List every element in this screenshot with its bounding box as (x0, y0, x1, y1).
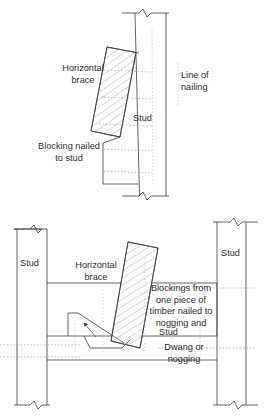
brace-stud-contact-top (136, 53, 139, 54)
label-stud-right: Stud (221, 248, 240, 258)
label-line: Horizontal (63, 259, 129, 271)
stud-outline-top (135, 13, 166, 196)
label-line: Blockings from (142, 283, 220, 295)
label-blockings-from-one-piece: Blockings from one piece of timber naile… (142, 283, 220, 329)
leader-arrow-icon (84, 323, 96, 337)
label-line: brace (63, 271, 129, 283)
technical-drawing-figure: Horizontal brace Blocking nailed to stud… (0, 0, 264, 420)
stud-center-dotted-top (152, 30, 153, 185)
top-diagram-group (91, 9, 178, 200)
label-line: timber nailed to (142, 306, 220, 318)
label-line: Line of (181, 69, 209, 81)
bottom-break-symbol-top-diagram (122, 192, 169, 200)
horizontal-brace-shape-top (91, 47, 136, 137)
label-dwang-or-nogging: Dwang or nogging (148, 342, 220, 365)
label-horizontal-brace-bottom: Horizontal brace (63, 259, 129, 283)
label-horizontal-brace-top: Horizontal brace (48, 62, 118, 86)
label-line: Horizontal (48, 62, 118, 74)
label-line: Dwang or (148, 342, 220, 354)
label-line: nailing (181, 81, 209, 93)
drawing-canvas (0, 0, 264, 420)
label-line: to stud (27, 152, 111, 164)
label-blocking-nailed-to-stud: Blocking nailed to stud (27, 140, 111, 164)
label-line: Blocking nailed (27, 140, 111, 152)
label-line: nogging and (142, 318, 220, 330)
top-break-symbol (122, 9, 169, 17)
label-line: brace (48, 74, 118, 86)
label-stud-center: Stud (159, 327, 178, 337)
label-line-of-nailing: Line of nailing (181, 69, 209, 93)
label-stud-top: Stud (133, 113, 152, 123)
label-stud-left: Stud (20, 258, 39, 268)
left-stud-group (14, 225, 50, 409)
label-line: one piece of (142, 295, 220, 307)
label-line: nogging (148, 354, 220, 366)
